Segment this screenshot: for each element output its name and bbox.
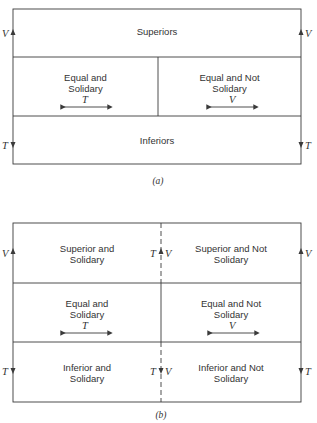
cell-line1: Equal and (13, 72, 158, 83)
symbol-t: T (82, 94, 88, 105)
label-v-right: V (305, 28, 311, 39)
label-t-center-down: T (150, 366, 156, 377)
cell-equal-not-solidary-a: Equal and Not Solidary (158, 72, 301, 94)
cell-line2: Solidary (158, 83, 301, 94)
cell-superiors: Superiors (13, 26, 301, 37)
cell-line1: Inferior and Not (161, 362, 301, 373)
cell-line2: Solidary (161, 373, 301, 384)
cell-line2: Solidary (13, 83, 158, 94)
cell-inferiors: Inferiors (13, 135, 301, 146)
cell-line2: Solidary (13, 373, 161, 384)
caption-b: (b) (141, 410, 181, 420)
cell-superior-not-solidary: Superior and Not Solidary (161, 243, 301, 265)
caption-a: (a) (138, 176, 178, 186)
label-t-left: T (2, 366, 8, 377)
label-v-left: V (2, 248, 8, 259)
label-v-center-up: V (165, 248, 171, 259)
label-t-right: T (305, 140, 311, 151)
cell-line1: Inferior and (13, 362, 161, 373)
cell-inferior-not-solidary: Inferior and Not Solidary (161, 362, 301, 384)
cell-inferior-solidary: Inferior and Solidary (13, 362, 161, 384)
cell-line1: Superior and Not (161, 243, 301, 254)
cell-line1: Superior and (13, 243, 161, 254)
label-t-center-up: T (150, 248, 156, 259)
diagram-lines (0, 0, 317, 423)
label-v-center-down: V (165, 366, 171, 377)
symbol-t: T (82, 320, 88, 331)
symbol-v: V (229, 320, 235, 331)
label-v-left: V (2, 28, 8, 39)
cell-line1: Equal and Not (161, 298, 301, 309)
label-t-right: T (305, 366, 311, 377)
cell-equal-solidary-a: Equal and Solidary (13, 72, 158, 94)
cell-line1: Equal and Not (158, 72, 301, 83)
cell-line1: Equal and (13, 298, 161, 309)
label-t-left: T (2, 140, 8, 151)
cell-line2: Solidary (161, 309, 301, 320)
cell-superior-solidary: Superior and Solidary (13, 243, 161, 265)
cell-line2: Solidary (161, 254, 301, 265)
cell-line2: Solidary (13, 254, 161, 265)
cell-equal-solidary-b: Equal and Solidary (13, 298, 161, 320)
cell-equal-not-solidary-b: Equal and Not Solidary (161, 298, 301, 320)
cell-line2: Solidary (13, 309, 161, 320)
label-v-right: V (305, 248, 311, 259)
symbol-v: V (229, 94, 235, 105)
